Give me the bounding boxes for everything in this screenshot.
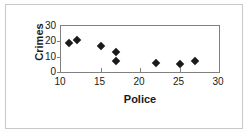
x-tick-label: 15: [94, 76, 105, 87]
x-tick-label: 30: [212, 76, 223, 87]
data-point: [112, 48, 120, 56]
x-tick-mark: [140, 68, 141, 72]
y-tick-label: 10: [45, 52, 56, 62]
x-tick-mark: [180, 68, 181, 72]
x-tick-label: 20: [133, 76, 144, 87]
y-tick-mark: [57, 57, 61, 58]
y-axis-tick-labels: 3020100: [34, 19, 56, 79]
x-tick-label: 25: [173, 76, 184, 87]
x-tick-label: 10: [54, 76, 65, 87]
plot-area: [60, 25, 220, 73]
scatter-points-layer: [61, 26, 219, 72]
y-tick-label: 30: [45, 21, 56, 31]
y-tick-mark: [57, 72, 61, 73]
y-tick-mark: [57, 41, 61, 42]
data-point: [96, 42, 104, 50]
data-point: [73, 36, 81, 44]
data-point: [191, 57, 199, 65]
x-axis-title: Police: [60, 93, 220, 106]
data-point: [152, 59, 160, 67]
x-axis-tick-labels: 1015202530: [60, 76, 220, 90]
x-tick-mark: [101, 68, 102, 72]
y-tick-label: 20: [45, 36, 56, 46]
chart-frame: Crimes 3020100 1015202530 Police: [5, 4, 243, 129]
data-point: [112, 57, 120, 65]
